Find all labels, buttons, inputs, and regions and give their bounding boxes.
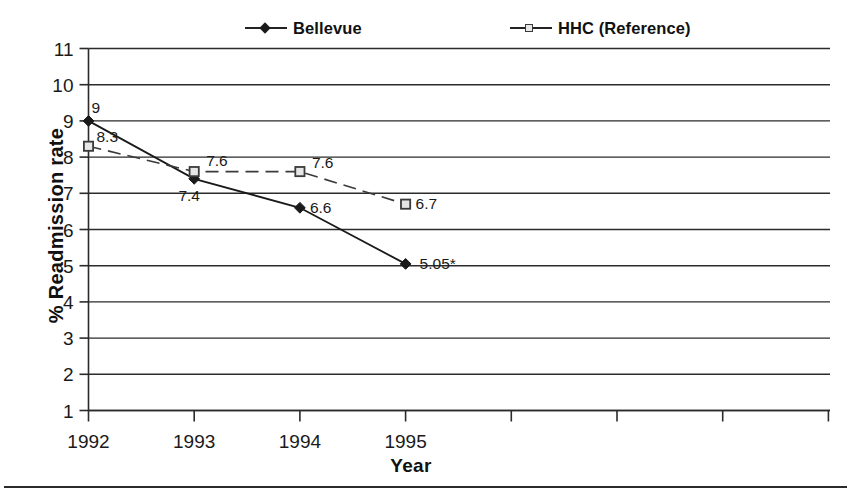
y-tick-label: 11 bbox=[54, 39, 74, 60]
series-lines-group bbox=[89, 121, 406, 264]
data-point-label: 7.4 bbox=[178, 187, 200, 204]
footer-rule bbox=[4, 486, 847, 488]
plot-area: 1110987654321 1992199319941995 97.46.65.… bbox=[0, 0, 851, 496]
x-tick-label: 1993 bbox=[173, 431, 215, 452]
square-marker-icon bbox=[401, 200, 410, 209]
y-tick-label: 4 bbox=[63, 292, 74, 313]
data-point-label: 6.6 bbox=[310, 199, 332, 216]
data-point-label: 5.05* bbox=[420, 255, 456, 272]
y-tick-label: 10 bbox=[52, 75, 73, 96]
x-tickmarks-group bbox=[89, 411, 829, 422]
data-point-label: 8.3 bbox=[97, 128, 119, 145]
y-tick-label: 3 bbox=[63, 328, 74, 349]
y-tick-labels-group: 1110987654321 bbox=[52, 39, 74, 422]
data-point-label: 7.6 bbox=[312, 154, 334, 171]
x-tick-label: 1995 bbox=[384, 431, 426, 452]
x-axis-title: Year bbox=[0, 455, 822, 477]
series-line-bellevue bbox=[89, 121, 406, 264]
y-tick-label: 7 bbox=[63, 183, 74, 204]
x-tick-labels-group: 1992199319941995 bbox=[67, 431, 426, 452]
chart-figure: Bellevue HHC (Reference) % Readmission r… bbox=[0, 0, 851, 496]
y-tick-label: 2 bbox=[63, 364, 74, 385]
square-marker-icon bbox=[84, 142, 93, 151]
square-marker-icon bbox=[295, 167, 304, 176]
square-marker-icon bbox=[190, 167, 199, 176]
x-tick-label: 1992 bbox=[67, 431, 109, 452]
gridlines-group bbox=[89, 49, 831, 411]
series-line-hhc bbox=[89, 146, 406, 204]
y-tick-label: 6 bbox=[63, 220, 74, 241]
y-tick-label: 9 bbox=[63, 111, 74, 132]
y-tick-label: 1 bbox=[63, 401, 74, 422]
diamond-marker-icon bbox=[295, 202, 306, 213]
data-point-label: 9 bbox=[92, 99, 101, 116]
data-point-label: 6.7 bbox=[416, 195, 438, 212]
diamond-marker-icon bbox=[83, 116, 94, 127]
point-labels-group: 97.46.65.05*8.37.67.66.7 bbox=[92, 99, 456, 272]
x-tick-label: 1994 bbox=[279, 431, 322, 452]
y-tick-label: 5 bbox=[63, 256, 74, 277]
data-point-label: 7.6 bbox=[206, 152, 228, 169]
y-tick-label: 8 bbox=[63, 147, 74, 168]
diamond-marker-icon bbox=[400, 258, 411, 269]
